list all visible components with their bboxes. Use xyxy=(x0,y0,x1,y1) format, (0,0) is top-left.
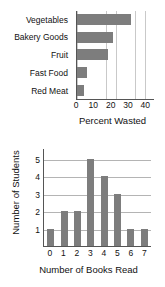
bar-chart-x-tick: 10 xyxy=(89,101,98,110)
bar-chart-bar xyxy=(77,85,84,96)
histogram-y-tick: 5 xyxy=(35,155,40,164)
histogram-x-tick: 6 xyxy=(128,249,133,258)
bar-chart-category-labels: Vegetables Bakery Goods Fruit Fast Food … xyxy=(0,11,72,100)
bar-chart-x-tick: 0 xyxy=(74,101,79,110)
histogram-y-tick: 2 xyxy=(35,208,40,217)
histogram-bar-slot xyxy=(138,149,151,246)
bar-chart-x-tick: 20 xyxy=(106,101,115,110)
histogram-bar-slot xyxy=(98,149,111,246)
bar-category-label: Red Meat xyxy=(0,87,72,96)
histogram-bar xyxy=(87,159,94,247)
bar-chart-bar xyxy=(77,67,87,78)
histogram-y-tick: 4 xyxy=(35,173,40,182)
histogram-y-tick: 3 xyxy=(35,190,40,199)
histogram-bar-slot xyxy=(44,149,57,246)
histogram-y-axis-title: Number of Students xyxy=(10,139,21,247)
histogram-bar-slot xyxy=(71,149,84,246)
bar-category-label: Fruit xyxy=(0,51,72,60)
bar-category-label: Vegetables xyxy=(0,16,72,25)
percent-wasted-bar-chart: Vegetables Bakery Goods Fruit Fast Food … xyxy=(0,0,165,133)
histogram-x-tick: 2 xyxy=(74,249,79,258)
bar-chart-row xyxy=(77,49,154,60)
histogram-x-tick-labels: 01234567 xyxy=(43,249,151,260)
bar-chart-row xyxy=(77,14,154,25)
histogram-bar xyxy=(114,194,121,247)
bar-category-label: Fast Food xyxy=(0,69,72,78)
bar-chart-row xyxy=(77,85,154,96)
bar-chart-x-axis-title: Percent Wasted xyxy=(60,115,165,126)
histogram-bars xyxy=(44,149,151,246)
histogram-x-tick: 7 xyxy=(142,249,147,258)
histogram-bar xyxy=(141,229,148,247)
histogram-y-tick: 1 xyxy=(35,225,40,234)
histogram-bar-slot xyxy=(111,149,124,246)
histogram-y-tick-labels: 12345 xyxy=(26,149,40,247)
histogram-x-axis-title: Number of Books Read xyxy=(16,264,161,275)
bar-chart-bar xyxy=(77,14,131,25)
bar-chart-row xyxy=(77,67,154,78)
histogram-x-tick: 1 xyxy=(61,249,66,258)
bar-chart-plot-area xyxy=(76,11,154,100)
histogram-x-tick: 5 xyxy=(115,249,120,258)
histogram-x-tick: 3 xyxy=(88,249,93,258)
bar-category-label: Bakery Goods xyxy=(0,33,72,42)
histogram-bar xyxy=(61,211,68,246)
bar-chart-x-tick: 30 xyxy=(123,101,132,110)
books-read-histogram: Number of Students 12345 01234567 Number… xyxy=(0,140,165,287)
histogram-x-tick: 0 xyxy=(47,249,52,258)
histogram-bar xyxy=(127,229,134,247)
bar-chart-bar xyxy=(77,49,108,60)
bar-chart-bar xyxy=(77,32,113,43)
histogram-bar-slot xyxy=(57,149,70,246)
histogram-bar-slot xyxy=(84,149,97,246)
histogram-bar xyxy=(101,176,108,246)
bar-chart-bars xyxy=(77,11,154,99)
bar-chart-row xyxy=(77,32,154,43)
histogram-plot-area xyxy=(43,149,151,247)
bar-chart-x-tick: 40 xyxy=(141,101,150,110)
histogram-x-tick: 4 xyxy=(101,249,106,258)
bar-chart-x-tick-labels: 010203040 xyxy=(76,101,154,112)
histogram-bar xyxy=(47,229,54,247)
histogram-bar xyxy=(74,211,81,246)
histogram-bar-slot xyxy=(124,149,137,246)
